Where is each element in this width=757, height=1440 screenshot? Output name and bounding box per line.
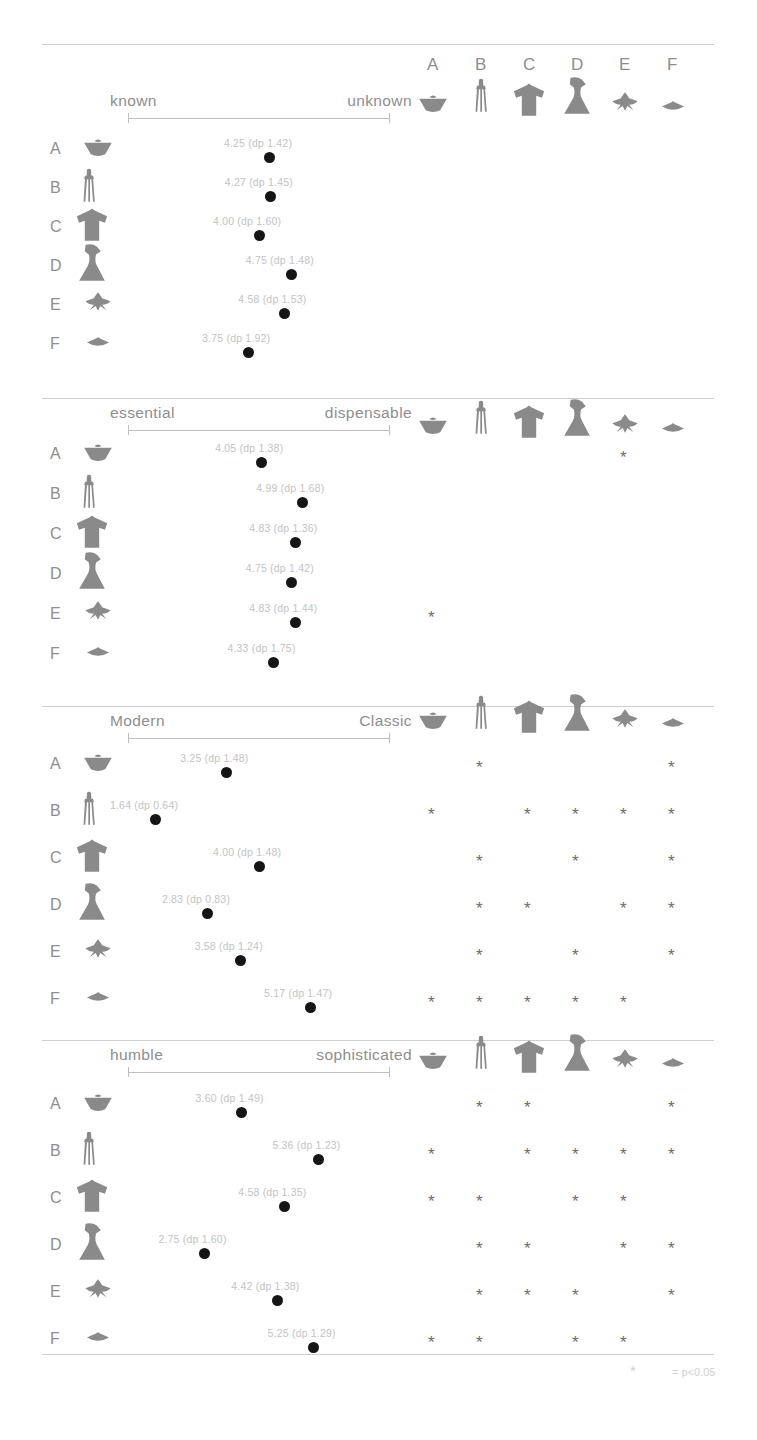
datapoint-panel-essential-dispensable-F <box>268 657 279 668</box>
row-label-panel-known-unknown-E: E <box>50 296 61 314</box>
row-icon-panel-essential-dispensable-disc-silhouette <box>72 640 124 664</box>
row-label-panel-humble-sophisticated-D: D <box>50 1236 62 1254</box>
datapoint-label-panel-humble-sophisticated-F: 5.25 (dp 1.29) <box>268 1327 336 1339</box>
row-label-panel-modern-classic-C: C <box>50 849 62 867</box>
significance-marker-panel-humble-sophisticated-B-A: * <box>428 1146 435 1163</box>
datapoint-panel-humble-sophisticated-E <box>272 1295 283 1306</box>
datapoint-panel-essential-dispensable-B <box>297 497 308 508</box>
significance-marker-panel-humble-sophisticated-C-A: * <box>428 1193 435 1210</box>
row-label-panel-humble-sophisticated-A: A <box>50 1095 61 1113</box>
scale-tick-right-panel-known-unknown <box>389 113 390 123</box>
row-label-panel-humble-sophisticated-F: F <box>50 1330 60 1348</box>
col-header-letter-F: F <box>667 55 677 75</box>
significance-marker-panel-modern-classic-B-A: * <box>428 806 435 823</box>
scale-label-right-panel-humble-sophisticated: sophisticated <box>316 1046 412 1064</box>
significance-marker-panel-humble-sophisticated-E-C: * <box>524 1287 531 1304</box>
col-header-hourglass-silhouette <box>557 76 597 118</box>
panel-1-col-icon-juicer-silhouette <box>464 396 498 440</box>
col-header-letter-D: D <box>571 55 583 75</box>
panel-2-col-icon-juicer-silhouette <box>464 691 498 735</box>
significance-marker-panel-humble-sophisticated-F-E: * <box>620 1334 627 1351</box>
panel-3-col-icon-hourglass-silhouette <box>557 1033 597 1075</box>
row-label-panel-modern-classic-F: F <box>50 990 60 1008</box>
significance-marker-panel-humble-sophisticated-E-D: * <box>572 1287 579 1304</box>
datapoint-panel-modern-classic-E <box>235 955 246 966</box>
scale-tick-right-panel-humble-sophisticated <box>389 1067 390 1077</box>
col-header-juicer-silhouette <box>464 74 498 118</box>
scale-tick-left-panel-essential-dispensable <box>128 425 129 435</box>
datapoint-label-panel-humble-sophisticated-A: 3.60 (dp 1.49) <box>196 1092 264 1104</box>
row-icon-panel-modern-classic-bird-silhouette <box>72 935 124 965</box>
datapoint-panel-known-unknown-F <box>243 347 254 358</box>
panel-divider-1 <box>42 398 714 399</box>
panel-3-col-icon-tshirt-silhouette <box>509 1039 549 1075</box>
datapoint-panel-modern-classic-D <box>202 908 213 919</box>
row-label-panel-known-unknown-D: D <box>50 257 62 275</box>
significance-marker-panel-humble-sophisticated-D-E: * <box>620 1240 627 1257</box>
significance-marker-panel-modern-classic-B-E: * <box>620 806 627 823</box>
datapoint-panel-modern-classic-C <box>254 861 265 872</box>
datapoint-panel-known-unknown-C <box>254 230 265 241</box>
significance-marker-panel-humble-sophisticated-F-A: * <box>428 1334 435 1351</box>
datapoint-panel-known-unknown-D <box>286 269 297 280</box>
row-label-panel-essential-dispensable-E: E <box>50 605 61 623</box>
datapoint-label-panel-essential-dispensable-D: 4.75 (dp 1.42) <box>246 562 314 574</box>
col-header-disc-silhouette <box>647 94 699 118</box>
col-header-letter-A: A <box>427 55 438 75</box>
significance-marker-panel-humble-sophisticated-D-C: * <box>524 1240 531 1257</box>
significance-marker-panel-modern-classic-B-D: * <box>572 806 579 823</box>
row-icon-panel-known-unknown-hourglass-silhouette <box>72 243 112 285</box>
significance-marker-panel-essential-dispensable-A-E: * <box>620 449 627 466</box>
scale-tick-left-panel-known-unknown <box>128 113 129 123</box>
row-label-panel-known-unknown-C: C <box>50 218 62 236</box>
row-icon-panel-essential-dispensable-tshirt-silhouette <box>72 514 112 550</box>
col-header-bird-silhouette <box>599 88 651 118</box>
panel-1-col-icon-disc-silhouette <box>647 416 699 440</box>
scale-label-left-panel-known-unknown: known <box>110 92 157 110</box>
row-label-panel-modern-classic-E: E <box>50 943 61 961</box>
datapoint-panel-modern-classic-B <box>150 814 161 825</box>
datapoint-panel-known-unknown-B <box>265 191 276 202</box>
col-header-letter-B: B <box>475 55 486 75</box>
significance-marker-panel-humble-sophisticated-C-D: * <box>572 1193 579 1210</box>
scale-label-right-panel-essential-dispensable: dispensable <box>325 404 412 422</box>
datapoint-label-panel-known-unknown-B: 4.27 (dp 1.45) <box>225 176 293 188</box>
scale-label-right-panel-known-unknown: unknown <box>347 92 412 110</box>
scale-axis-panel-known-unknown <box>128 118 390 119</box>
significance-marker-panel-modern-classic-D-E: * <box>620 900 627 917</box>
panel-1-col-icon-tshirt-silhouette <box>509 404 549 440</box>
row-label-panel-known-unknown-A: A <box>50 140 61 158</box>
significance-marker-panel-humble-sophisticated-F-B: * <box>476 1334 483 1351</box>
row-label-panel-essential-dispensable-D: D <box>50 565 62 583</box>
datapoint-label-panel-known-unknown-F: 3.75 (dp 1.92) <box>202 332 270 344</box>
row-label-panel-essential-dispensable-F: F <box>50 645 60 663</box>
datapoint-label-panel-known-unknown-C: 4.00 (dp 1.60) <box>213 215 281 227</box>
scale-tick-left-panel-humble-sophisticated <box>128 1067 129 1077</box>
datapoint-label-panel-essential-dispensable-F: 4.33 (dp 1.75) <box>227 642 295 654</box>
row-label-panel-humble-sophisticated-C: C <box>50 1189 62 1207</box>
panel-1-col-icon-bowl-silhouette <box>407 410 459 440</box>
significance-marker-panel-essential-dispensable-E-A: * <box>428 609 435 626</box>
significance-marker-panel-modern-classic-F-A: * <box>428 994 435 1011</box>
datapoint-label-panel-modern-classic-C: 4.00 (dp 1.48) <box>213 846 281 858</box>
datapoint-label-panel-modern-classic-F: 5.17 (dp 1.47) <box>264 987 332 999</box>
datapoint-panel-essential-dispensable-C <box>290 537 301 548</box>
significance-marker-panel-humble-sophisticated-E-F: * <box>668 1287 675 1304</box>
significance-marker-panel-modern-classic-C-B: * <box>476 853 483 870</box>
scale-tick-right-panel-modern-classic <box>389 733 390 743</box>
datapoint-panel-essential-dispensable-D <box>286 577 297 588</box>
panel-3-col-icon-bowl-silhouette <box>407 1045 459 1075</box>
datapoint-panel-humble-sophisticated-A <box>236 1107 247 1118</box>
scale-tick-left-panel-modern-classic <box>128 733 129 743</box>
significance-marker-panel-humble-sophisticated-A-F: * <box>668 1099 675 1116</box>
panel-1-col-icon-hourglass-silhouette <box>557 398 597 440</box>
footnote-marker: * <box>630 1362 636 1379</box>
significance-marker-panel-modern-classic-E-D: * <box>572 947 579 964</box>
col-header-letter-E: E <box>619 55 630 75</box>
significance-marker-panel-modern-classic-A-B: * <box>476 759 483 776</box>
significance-marker-panel-modern-classic-E-B: * <box>476 947 483 964</box>
panel-2-col-icon-tshirt-silhouette <box>509 699 549 735</box>
significance-marker-panel-humble-sophisticated-B-C: * <box>524 1146 531 1163</box>
datapoint-panel-humble-sophisticated-F <box>308 1342 319 1353</box>
significance-marker-panel-humble-sophisticated-B-F: * <box>668 1146 675 1163</box>
